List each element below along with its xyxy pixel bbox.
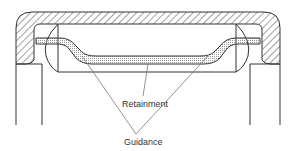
cage [36, 38, 260, 64]
leader-lines [82, 56, 208, 134]
guidance-label: Guidance [124, 137, 163, 147]
retainment-label: Retainment [122, 99, 168, 109]
inner-ring-lines [16, 64, 280, 125]
bearing-cross-section-diagram [0, 0, 295, 151]
